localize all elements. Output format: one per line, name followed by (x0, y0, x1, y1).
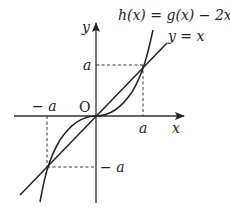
origin-label: O (79, 99, 90, 115)
line-equation-label: y = x (167, 28, 205, 44)
graph-canvas: h(x) = g(x) − 2x y = x y x O a a − a − a (0, 0, 230, 213)
tick-a-y-label: a (83, 57, 91, 73)
tick-neg-a-x-label: − a (32, 98, 57, 114)
h-equation-label: h(x) = g(x) − 2x (118, 7, 230, 23)
tick-a-x-label: a (139, 120, 147, 136)
x-axis-label: x (172, 120, 180, 136)
tick-neg-a-y-label: − a (100, 159, 125, 175)
function-graph-figure: h(x) = g(x) − 2x y = x y x O a a − a − a (0, 0, 230, 213)
line-y-equals-x (20, 43, 167, 195)
y-axis-label: y (81, 19, 91, 35)
